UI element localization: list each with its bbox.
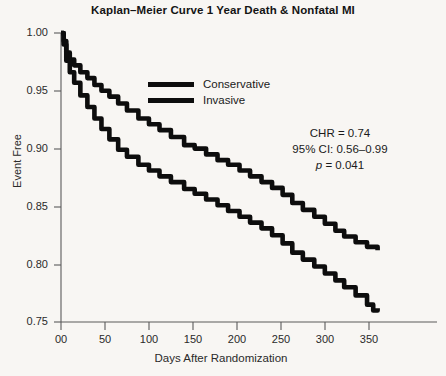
y-axis-label: Event Free [11, 116, 23, 206]
statistics-annotation: CHR = 0.74 95% CI: 0.56–0.99 p = 0.041 [252, 125, 428, 173]
y-tick-label: 0.80 [8, 258, 48, 270]
x-tick-label: 50 [85, 333, 125, 345]
x-tick-label: 250 [261, 333, 301, 345]
legend-swatch-icon [148, 98, 194, 103]
y-axis-ticks [54, 33, 61, 322]
plot-area [0, 0, 446, 376]
y-tick-label: 0.95 [8, 84, 48, 96]
x-tick-label: 100 [129, 333, 169, 345]
x-axis-ticks [61, 322, 369, 330]
legend-swatch-icon [148, 82, 194, 87]
p-value-text: p = 0.041 [252, 157, 428, 173]
hazard-ratio-text: CHR = 0.74 [252, 125, 428, 141]
x-axis-label: Days After Randomization [61, 352, 381, 364]
kaplan-meier-figure: Kaplan–Meier Curve 1 Year Death & Nonfat… [0, 0, 446, 376]
confidence-interval-text: 95% CI: 0.56–0.99 [252, 141, 428, 157]
x-tick-label: 200 [217, 333, 257, 345]
legend-item-invasive: Invasive [148, 92, 270, 108]
legend-label: Invasive [203, 94, 245, 106]
p-number: = 0.041 [322, 159, 364, 171]
legend-item-conservative: Conservative [148, 76, 270, 92]
x-tick-label: 00 [41, 333, 81, 345]
y-tick-label: 1.00 [8, 26, 48, 38]
legend-label: Conservative [203, 78, 270, 90]
x-tick-label: 300 [305, 333, 345, 345]
y-tick-label: 0.75 [8, 315, 48, 327]
x-tick-label: 350 [349, 333, 389, 345]
chart-legend: Conservative Invasive [148, 76, 270, 108]
x-tick-label: 150 [173, 333, 213, 345]
